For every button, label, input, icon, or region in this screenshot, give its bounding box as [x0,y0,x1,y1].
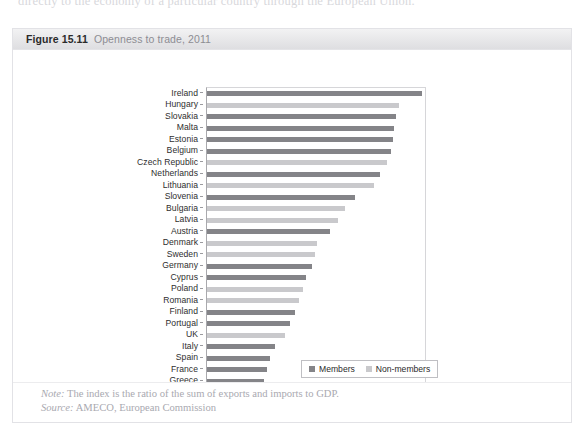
y-axis-label: Netherlands [13,168,203,180]
bar [207,310,295,315]
bar-row [207,192,425,204]
y-axis-tick [200,127,203,128]
y-axis-label: Portugal [13,317,203,329]
source-text: AMECO, European Commission [76,402,216,413]
y-axis-label: Estonia [13,133,203,145]
bar-row [207,330,425,342]
chart-legend: MembersNon-members [301,360,438,378]
bar-row [207,157,425,169]
y-axis-label: Belgium [13,145,203,157]
y-axis-label: Denmark [13,237,203,249]
bar [207,252,315,257]
y-axis-labels: IrelandHungarySlovakiaMaltaEstoniaBelgiu… [13,87,203,386]
bar [207,333,285,338]
legend-item: Members [309,364,355,374]
bar-row [207,341,425,353]
y-axis-tick [200,368,203,369]
bar [207,91,422,96]
bar-row [207,295,425,307]
y-axis-tick [200,288,203,289]
y-axis-tick [200,334,203,335]
y-axis-label: Ireland [13,87,203,99]
y-axis-label: Malta [13,122,203,134]
bar-row [207,249,425,261]
bar [207,103,399,108]
y-axis-tick [200,253,203,254]
y-axis-tick [200,357,203,358]
y-axis-label: Germany [13,260,203,272]
y-axis-tick [200,345,203,346]
bar [207,298,299,303]
bar [207,275,306,280]
bar-row [207,318,425,330]
bar-row [207,111,425,123]
figure-page: directly to the economy of a particular … [0,0,586,440]
plot-area [206,87,426,388]
bar [207,241,317,246]
legend-swatch [309,366,315,372]
bar-row [207,180,425,192]
y-axis-label: Bulgaria [13,202,203,214]
page-body-text-fragment: directly to the economy of a particular … [18,0,570,9]
y-axis-tick [200,276,203,277]
bar [207,195,355,200]
note-label: Note: [41,388,65,399]
bar-row [207,284,425,296]
y-axis-label: France [13,363,203,375]
chart-area: IrelandHungarySlovakiaMaltaEstoniaBelgiu… [13,50,571,390]
y-axis-tick [200,322,203,323]
bar [207,287,303,292]
y-axis-tick [200,184,203,185]
bar-row [207,134,425,146]
y-axis-label: Cyprus [13,271,203,283]
figure-source: Source: AMECO, European Commission [41,401,571,415]
figure-number: Figure 15.11 [26,33,88,45]
y-axis-label: Hungary [13,99,203,111]
y-axis-tick [200,311,203,312]
bar [207,218,338,223]
bar-row [207,123,425,135]
y-axis-label: Slovenia [13,191,203,203]
bar-rows [207,88,425,387]
bar-row [207,307,425,319]
bar-row [207,169,425,181]
bar [207,367,267,372]
y-axis-tick [200,138,203,139]
bar [207,126,394,131]
bar [207,149,391,154]
y-axis-tick [200,265,203,266]
y-axis-tick [200,299,203,300]
bar-row [207,100,425,112]
bar [207,183,374,188]
figure-footer: Note: The index is the ratio of the sum … [13,382,571,422]
y-axis-label: Latvia [13,214,203,226]
y-axis-tick [200,207,203,208]
bar-row [207,238,425,250]
y-axis-label: Finland [13,306,203,318]
bar-row [207,261,425,273]
source-label: Source: [41,402,74,413]
bar [207,264,312,269]
y-axis-tick [200,104,203,105]
bar [207,206,345,211]
bar-row [207,272,425,284]
y-axis-tick [200,380,203,381]
legend-item: Non-members [366,364,430,374]
bar [207,137,393,142]
y-axis-label: Spain [13,352,203,364]
bar [207,321,290,326]
figure-container: Figure 15.11 Openness to trade, 2011 Ire… [12,28,572,423]
y-axis-tick [200,219,203,220]
y-axis-tick [200,196,203,197]
y-axis-label: Slovakia [13,110,203,122]
bar [207,114,396,119]
bar [207,172,380,177]
figure-header: Figure 15.11 Openness to trade, 2011 [13,29,571,50]
y-axis-label: Lithuania [13,179,203,191]
y-axis-label: UK [13,329,203,341]
y-axis-label: Sweden [13,248,203,260]
bar [207,344,275,349]
y-axis-tick [200,115,203,116]
y-axis-tick [200,161,203,162]
bar-row [207,88,425,100]
